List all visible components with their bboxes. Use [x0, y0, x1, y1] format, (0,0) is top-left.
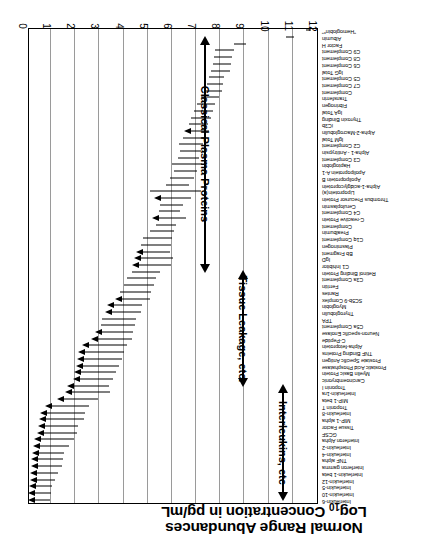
range-bar — [141, 244, 171, 245]
range-arrowhead — [29, 483, 36, 489]
data-row — [29, 416, 317, 423]
axis-title-post: Concentration in pg/mL — [161, 504, 329, 521]
range-bar — [36, 472, 58, 473]
range-arrowhead — [152, 215, 159, 221]
range-bar — [142, 251, 170, 252]
data-row — [29, 282, 317, 289]
range-bar — [211, 70, 230, 71]
data-row — [29, 329, 317, 336]
range-bar — [166, 184, 189, 185]
protein-label: Thrombus Precursor Protein — [322, 196, 388, 202]
protein-label: Neuron-specific Enolase — [322, 330, 379, 336]
protein-label: Prealbumin — [322, 230, 349, 236]
range-bar — [36, 479, 55, 480]
protein-label: Albumin — [322, 35, 341, 41]
range-bar — [216, 50, 234, 51]
annotation-arrowhead-up — [278, 492, 288, 501]
x-tick-label-0: 0 — [17, 23, 28, 29]
data-row — [29, 47, 317, 54]
range-arrowhead — [95, 329, 102, 335]
range-arrowhead — [34, 436, 41, 442]
protein-label: Carcinoembryonic — [322, 377, 365, 383]
protein-label: C2 Complement — [322, 143, 360, 149]
data-row — [29, 463, 317, 470]
range-arrowhead — [76, 363, 83, 369]
annotation-arrowhead-down — [200, 36, 210, 45]
data-row — [29, 443, 317, 450]
data-row — [29, 429, 317, 436]
range-bar — [132, 271, 160, 272]
data-rows — [29, 29, 317, 503]
data-row — [29, 369, 317, 376]
data-row — [29, 154, 317, 161]
x-tick-label-10: 10 — [259, 20, 270, 31]
range-bar — [80, 372, 116, 373]
range-bar — [150, 231, 174, 232]
range-bar — [39, 446, 69, 447]
annotation-label: Classical Plasma Proteins — [199, 86, 211, 222]
range-bar — [111, 311, 141, 312]
protein-label: Complement — [322, 223, 352, 229]
protein-label: Interleukin-4 — [322, 451, 351, 457]
range-bar — [34, 492, 51, 493]
protein-label: Retinol Binding Protein — [322, 270, 376, 276]
data-row — [29, 409, 317, 416]
range-bar — [63, 399, 98, 400]
range-bar — [34, 499, 50, 500]
protein-label: Interleukin-8 — [322, 411, 351, 417]
data-row — [29, 54, 317, 61]
x-tick-label-3: 3 — [90, 23, 101, 29]
x-tick-label-5: 5 — [138, 23, 149, 29]
range-bar — [178, 157, 199, 158]
data-row — [29, 94, 317, 101]
data-row — [29, 483, 317, 490]
data-row — [29, 268, 317, 275]
data-row — [29, 356, 317, 363]
protein-label: Interferon Alpha — [322, 438, 359, 444]
range-bar — [73, 385, 109, 386]
protein-label: Lipoprotein(a) — [322, 190, 355, 196]
range-arrowhead — [91, 336, 98, 342]
range-bar — [140, 258, 174, 259]
range-bar — [120, 291, 151, 292]
data-row — [29, 469, 317, 476]
range-arrowhead — [30, 477, 37, 483]
data-row — [29, 449, 317, 456]
data-row — [29, 74, 317, 81]
protein-label: Myoglobin — [322, 304, 346, 310]
range-bar — [158, 218, 187, 219]
data-row — [29, 141, 317, 148]
range-arrowhead — [78, 349, 85, 355]
range-arrowhead — [31, 456, 38, 462]
range-bar — [37, 459, 63, 460]
protein-label: Ceruloplasmin — [322, 203, 356, 209]
range-bar — [234, 43, 246, 44]
range-bar — [47, 412, 86, 413]
range-bar — [213, 63, 231, 64]
protein-label: Transferrin — [322, 96, 347, 102]
data-row — [29, 235, 317, 242]
protein-label: C5 Complement — [322, 76, 360, 82]
x-tick-label-6: 6 — [162, 23, 173, 29]
data-row — [29, 496, 317, 503]
protein-label: Rantes — [322, 290, 339, 296]
protein-label: C4 Complement — [322, 210, 360, 216]
x-tick-label-12: 12 — [307, 20, 318, 31]
range-arrowhead — [57, 396, 64, 402]
data-row — [29, 215, 317, 222]
range-arrowhead — [154, 195, 161, 201]
annotation-label: Tissue Leakage, etc. — [237, 275, 249, 382]
range-arrowhead — [45, 403, 52, 409]
range-bar — [43, 432, 77, 433]
x-tick-label-2: 2 — [65, 23, 76, 29]
range-bar — [174, 171, 197, 172]
protein-label: Interleukin-5 — [322, 485, 351, 491]
protein-label: Alpha-1-acidglycoprotein — [322, 183, 380, 189]
range-bar — [88, 345, 128, 346]
data-row — [29, 490, 317, 497]
protein-label: Interleukin-10 — [322, 491, 354, 497]
range-arrowhead — [132, 262, 139, 268]
data-row — [29, 175, 317, 182]
protein-label: Alpha-2-Macroglobulin — [322, 129, 375, 135]
data-row — [29, 382, 317, 389]
